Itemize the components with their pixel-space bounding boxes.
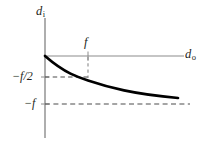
- x-tick-label-f: f: [84, 36, 87, 49]
- x-axis-label: do: [185, 48, 196, 61]
- y-tick-label-neg-f: −f: [24, 97, 35, 109]
- figure-container: di do f −f/2 −f: [0, 0, 204, 144]
- y-tick-label-half-f: −f/2: [12, 70, 33, 82]
- curve-di-vs-do: [45, 56, 178, 98]
- y-axis-subscript: i: [42, 9, 45, 19]
- x-axis-subscript: o: [191, 52, 196, 62]
- y-axis-label: di: [36, 5, 45, 18]
